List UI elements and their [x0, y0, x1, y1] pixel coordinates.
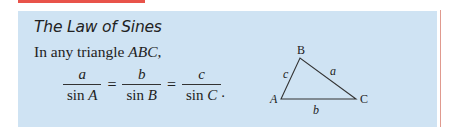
side-label-c: c [283, 67, 289, 81]
vertex-label-b: B [297, 43, 305, 57]
triangle-shape [281, 58, 356, 99]
side-label-b: b [313, 103, 319, 117]
triangle-diagram: B A C c a b [0, 0, 465, 133]
vertex-label-a: A [269, 92, 278, 106]
side-label-a: a [330, 64, 336, 78]
vertex-label-c: C [360, 92, 368, 106]
